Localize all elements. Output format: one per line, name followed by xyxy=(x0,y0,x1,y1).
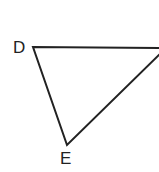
diagram-canvas: D E xyxy=(0,0,159,172)
triangle-shape xyxy=(33,47,159,145)
vertex-label-e: E xyxy=(60,150,71,167)
vertex-label-d: D xyxy=(13,39,25,56)
triangle-drawing xyxy=(0,0,159,172)
